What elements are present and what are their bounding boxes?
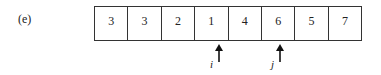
pointer-i-label: i (210, 58, 213, 70)
pointer-i-arrow-icon (213, 44, 225, 62)
array-cell: 7 (329, 7, 361, 40)
array-cell: 3 (95, 7, 128, 40)
array: 3 3 2 1 4 6 5 7 (94, 6, 362, 41)
array-cell: 2 (162, 7, 195, 40)
array-cell: 1 (195, 7, 228, 40)
array-cell: 3 (128, 7, 161, 40)
figure-label: (e) (18, 12, 31, 27)
pointer-j-arrow-icon (274, 44, 286, 62)
pointer-j-label: j (271, 58, 274, 70)
array-cell: 5 (295, 7, 328, 40)
array-cell: 4 (229, 7, 262, 40)
array-cell: 6 (262, 7, 295, 40)
